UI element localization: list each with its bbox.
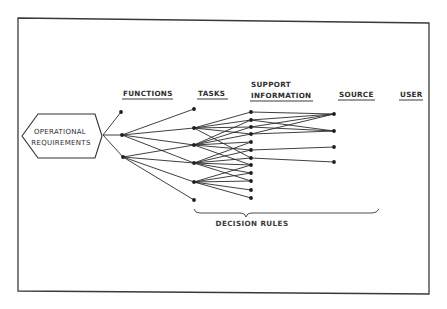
operational-requirements-node: OPERATIONAL REQUIREMENTS (22, 114, 102, 158)
support-information-node-s11 (249, 188, 253, 192)
source-node-r4 (332, 160, 336, 164)
edge-t5-s11 (194, 182, 251, 190)
tasks-node-t6 (192, 198, 196, 202)
functions-node-f2 (120, 133, 124, 137)
tasks-node-t3 (192, 143, 196, 147)
decision-rules-label: DECISION RULES (216, 219, 289, 228)
edges-layer (103, 109, 334, 200)
support-information-node-s4 (249, 132, 253, 136)
source-node-r1 (332, 112, 336, 116)
edge-f3-t3 (123, 145, 194, 157)
tasks-node-t1 (192, 107, 196, 111)
edge-t4-s6 (194, 150, 251, 163)
edge-s7-r4 (251, 158, 334, 162)
edge-t3-s6 (194, 145, 251, 150)
edge-root-f3 (103, 135, 123, 157)
tasks-node-t4 (192, 161, 196, 165)
support-information-node-s1 (249, 110, 253, 114)
edge-f3-t4 (123, 157, 194, 163)
support-label-line1: SUPPORT (251, 80, 291, 89)
tasks-node-t5 (192, 180, 196, 184)
edge-s1-r1 (251, 112, 334, 114)
edge-t4-s10 (194, 163, 251, 181)
edge-t2-s1 (194, 112, 251, 128)
column-header-tasks: TASKS (197, 89, 228, 99)
root-label-line2: REQUIREMENTS (31, 139, 91, 147)
edge-f2-t3 (122, 135, 194, 145)
edge-t4-s5 (194, 142, 251, 163)
support-information-node-s12 (249, 196, 253, 200)
support-information-node-s7 (249, 156, 253, 160)
support-information-node-s10 (249, 179, 253, 183)
functions-label: FUNCTIONS (123, 89, 173, 98)
support-information-node-s3 (249, 125, 253, 129)
edge-root-f1 (103, 112, 121, 135)
source-node-r2 (332, 129, 336, 133)
tasks-label: TASKS (198, 89, 225, 98)
user-label: USER (400, 90, 423, 99)
hexagon-shape (22, 114, 102, 158)
edge-s6-r3 (251, 147, 334, 150)
root-label-line1: OPERATIONAL (34, 128, 86, 136)
edge-t5-s9 (194, 173, 251, 182)
decision-rules-brace (194, 209, 379, 217)
edge-t5-s10 (194, 181, 251, 182)
column-header-support-information: SUPPORT INFORMATION (250, 80, 313, 101)
edge-f2-t4 (122, 135, 194, 163)
functions-node-f3 (121, 155, 125, 159)
support-information-node-s8 (249, 163, 253, 167)
source-node-r3 (332, 145, 336, 149)
column-header-user: USER (399, 90, 423, 100)
support-information-node-s6 (249, 148, 253, 152)
tasks-node-t2 (192, 126, 196, 130)
support-label-line2: INFORMATION (251, 91, 311, 100)
support-information-node-s2 (249, 118, 253, 122)
source-label: SOURCE (339, 90, 374, 99)
functions-node-f1 (119, 110, 123, 114)
edge-t5-s12 (194, 182, 251, 198)
column-header-source: SOURCE (338, 90, 375, 100)
support-information-node-s5 (249, 140, 253, 144)
column-header-functions: FUNCTIONS (122, 89, 173, 99)
support-information-node-s9 (249, 171, 253, 175)
edge-t2-s4 (194, 128, 251, 134)
diagram-canvas: OPERATIONAL REQUIREMENTS FUNCTIONS TASKS… (0, 0, 447, 309)
